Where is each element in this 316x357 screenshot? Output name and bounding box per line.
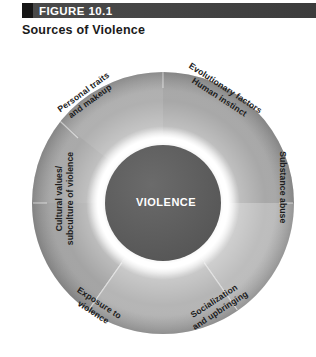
center-hub bbox=[105, 145, 221, 261]
donut-chart-svg bbox=[0, 0, 316, 357]
figure-page: FIGURE 10.1 Sources of Violence bbox=[0, 0, 316, 357]
sources-of-violence-diagram: Personal traits and makeup Evolutionary … bbox=[0, 0, 316, 357]
